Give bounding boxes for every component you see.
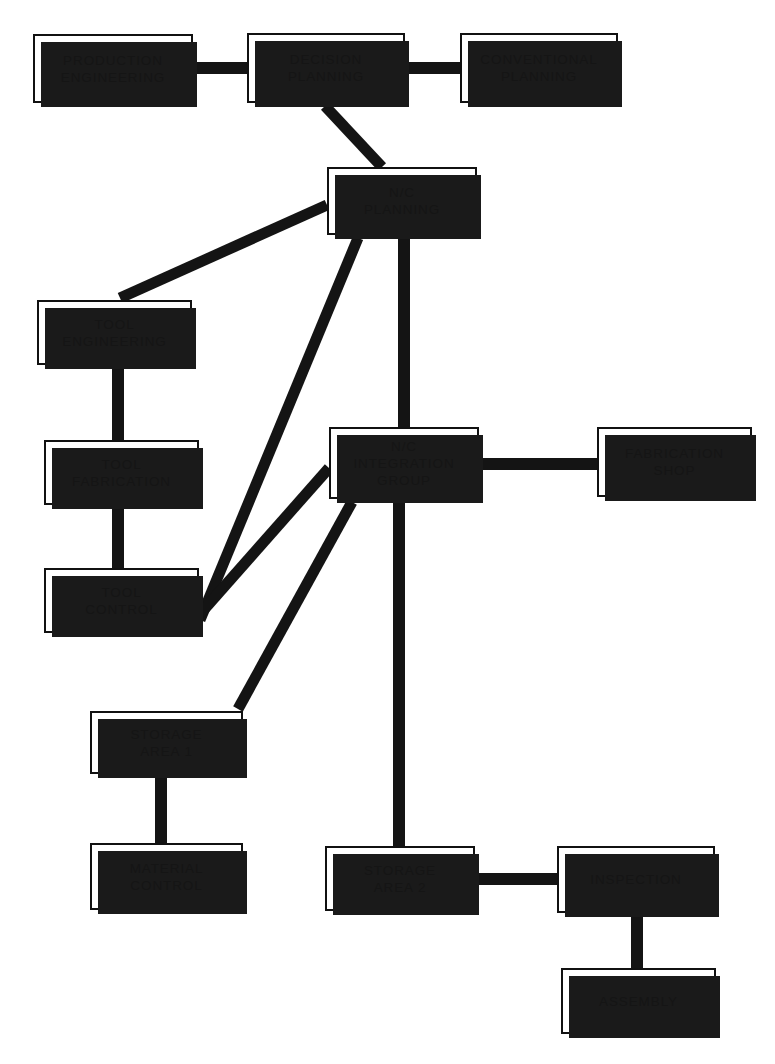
node-label-conventional-planning: CONVENTIONAL PLANNING (476, 51, 601, 85)
node-storage-area-2[interactable]: STORAGE AREA 2 (325, 846, 475, 911)
node-fabrication-shop[interactable]: FABRICATION SHOP (597, 427, 752, 497)
node-label-nc-integration-group: N/C INTEGRATION GROUP (349, 438, 458, 489)
connector-decision-planning-to-nc-planning (325, 106, 382, 167)
node-label-fabrication-shop: FABRICATION SHOP (621, 445, 728, 479)
node-tool-control[interactable]: TOOL CONTROL (44, 568, 199, 633)
node-assembly[interactable]: ASSEMBLY (561, 968, 716, 1034)
node-nc-planning[interactable]: N/C PLANNING (327, 167, 477, 235)
node-label-storage-area-2: STORAGE AREA 2 (360, 862, 440, 896)
connector-nc-planning-to-tool-engineering (120, 205, 327, 298)
node-material-control[interactable]: MATERIAL CONTROL (90, 843, 243, 910)
node-label-tool-engineering: TOOL ENGINEERING (58, 316, 170, 350)
node-label-production-engineering: PRODUCTION ENGINEERING (57, 52, 169, 86)
node-label-inspection: INSPECTION (586, 871, 686, 888)
node-label-nc-planning: N/C PLANNING (360, 184, 444, 218)
connector-nc-integration-group-to-tool-control (200, 468, 329, 614)
node-label-tool-control: TOOL CONTROL (81, 584, 161, 618)
node-label-material-control: MATERIAL CONTROL (126, 860, 208, 894)
node-nc-integration-group[interactable]: N/C INTEGRATION GROUP (329, 427, 479, 499)
connector-nc-integration-group-to-storage-area-1 (238, 502, 352, 709)
node-production-engineering[interactable]: PRODUCTION ENGINEERING (33, 34, 193, 103)
node-tool-engineering[interactable]: TOOL ENGINEERING (37, 300, 192, 365)
node-label-storage-area-1: STORAGE AREA 1 (126, 726, 206, 760)
node-label-decision-planning: DECISION PLANNING (284, 51, 368, 85)
node-label-assembly: ASSEMBLY (595, 993, 682, 1010)
node-decision-planning[interactable]: DECISION PLANNING (247, 33, 405, 103)
node-storage-area-1[interactable]: STORAGE AREA 1 (90, 711, 243, 774)
node-tool-fabrication[interactable]: TOOL FABRICATION (44, 440, 199, 505)
node-label-tool-fabrication: TOOL FABRICATION (68, 456, 175, 490)
node-conventional-planning[interactable]: CONVENTIONAL PLANNING (460, 33, 618, 103)
diagram-canvas: PRODUCTION ENGINEERINGDECISION PLANNINGC… (0, 0, 775, 1064)
node-inspection[interactable]: INSPECTION (557, 846, 715, 913)
